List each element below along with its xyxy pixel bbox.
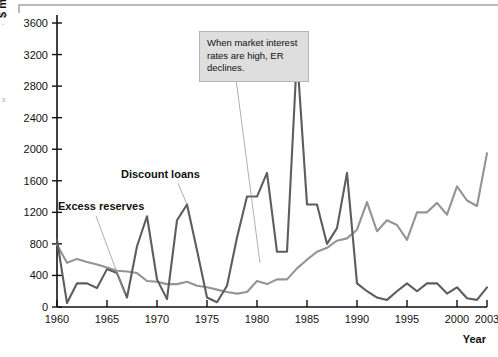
y-tick-label: 400: [30, 269, 48, 281]
x-axis-ticks: 1960196519701975198019851990199520002003: [45, 300, 498, 325]
x-tick-label: 1960: [45, 313, 69, 325]
annotation-callout: When market interest rates are high, ER …: [199, 31, 309, 82]
y-tick-label: 800: [30, 238, 48, 250]
y-tick-label: 1600: [24, 175, 48, 187]
series-label-excess-reserves: Excess reserves: [58, 200, 144, 212]
y-tick-label: 1200: [24, 206, 48, 218]
x-tick-label: 1970: [145, 313, 169, 325]
y-tick-label: 2400: [24, 112, 48, 124]
series-label-discount-loans: Discount loans: [121, 168, 200, 180]
y-tick-label: 0: [42, 301, 48, 313]
y-tick-label: 2000: [24, 143, 48, 155]
discount-loans-leader-line: [178, 183, 187, 204]
x-tick-label: 1990: [345, 313, 369, 325]
y-tick-label: 3200: [24, 49, 48, 61]
x-tick-label: 2003: [475, 313, 498, 325]
x-tick-label: 1985: [295, 313, 319, 325]
x-tick-label: 1975: [195, 313, 219, 325]
annotation-leader-line: [236, 79, 260, 263]
x-tick-label: 1980: [245, 313, 269, 325]
y-tick-label: 3600: [24, 17, 48, 29]
x-tick-label: 1965: [95, 313, 119, 325]
chart-figure: - s $ million Year 040080012001600200024…: [0, 0, 498, 357]
y-tick-label: 2800: [24, 80, 48, 92]
x-tick-label: 2000: [445, 313, 469, 325]
x-tick-label: 1995: [395, 313, 419, 325]
